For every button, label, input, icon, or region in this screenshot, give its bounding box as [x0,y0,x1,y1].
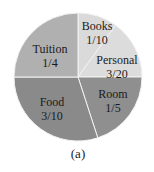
slice-fraction-books: 1/10 [86,33,107,47]
chart-caption: (a) [71,146,85,161]
slice-label-food: Food [40,95,65,109]
slice-label-personal: Personal [96,53,138,67]
slice-label-tuition: Tuition [33,42,68,56]
slice-label-room: Room [98,87,128,101]
slice-fraction-personal: 3/20 [106,67,127,81]
pie-chart: Books1/10Personal3/20Room1/5Food3/10Tuit… [0,0,154,172]
slice-fraction-food: 3/10 [41,109,62,123]
slice-label-books: Books [82,19,113,33]
slice-fraction-room: 1/5 [105,101,120,115]
slice-fraction-tuition: 1/4 [42,56,57,70]
